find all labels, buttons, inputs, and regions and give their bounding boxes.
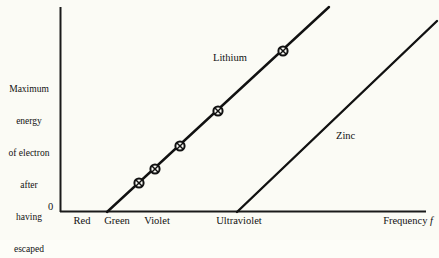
x-axis-label-symbol: f	[430, 215, 433, 226]
series-label-lithium: Lithium	[213, 52, 247, 64]
series-label-zinc: Zinc	[336, 130, 355, 142]
data-marker-lithium-5	[278, 46, 287, 55]
y-axis-label-line-1: Maximum	[2, 84, 56, 95]
x-axis-label: Frequency f	[383, 215, 433, 227]
xtick-label-green: Green	[95, 215, 139, 227]
origin-label: 0	[48, 201, 53, 213]
data-marker-lithium-4	[213, 106, 222, 115]
data-marker-lithium-3	[175, 141, 184, 150]
xtick-label-violet: Violet	[135, 215, 179, 227]
y-axis-label: Maximum energy of electron after having …	[2, 63, 56, 258]
series-line-zinc	[237, 21, 437, 212]
data-marker-lithium-1	[134, 178, 143, 187]
xtick-label-ultraviolet: Ultraviolet	[205, 215, 273, 227]
data-marker-lithium-2	[150, 164, 159, 173]
y-axis-label-line-4: after	[2, 180, 56, 191]
y-axis-label-line-3: of electron	[2, 148, 56, 159]
y-axis-label-line-5: having	[2, 212, 56, 223]
x-axis-label-text: Frequency	[383, 215, 430, 226]
y-axis-label-line-6: escaped	[2, 244, 56, 255]
y-axis-label-line-2: energy	[2, 116, 56, 127]
